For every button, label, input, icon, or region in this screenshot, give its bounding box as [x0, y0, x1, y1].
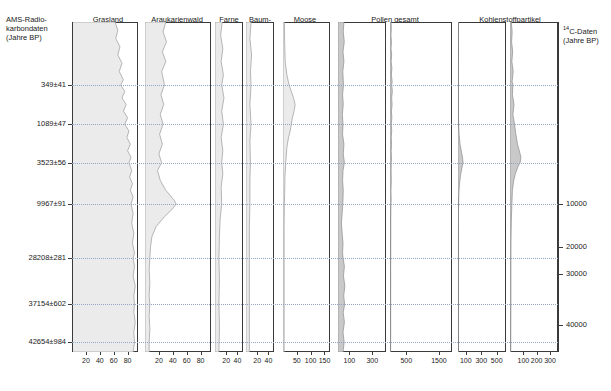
- ams-date-tick-6: [68, 342, 72, 343]
- pollen-diagram-figure: AMS-Radio- karbondaten (Jahre BP) Grasla…: [0, 0, 611, 391]
- curve-baumfarne: [246, 22, 274, 352]
- panel-araukarienwald: [145, 22, 211, 352]
- gridline-2: [72, 163, 558, 164]
- xtickmark-moose-0: [297, 352, 298, 355]
- panel-pollen-gesamt-a: [338, 22, 386, 352]
- xtickmark-pollen_b-0: [406, 352, 407, 355]
- ams-date-tick-5: [68, 304, 72, 305]
- c14-date-label-3: 40000: [566, 320, 587, 329]
- panel-kohlenstoffpartikel-b: [510, 22, 558, 352]
- curve-grasland: [72, 22, 138, 352]
- depth-axis-line: [72, 22, 73, 352]
- panel-kohlenstoffpartikel-a: [458, 22, 506, 352]
- xtick-grasland-3: 80: [114, 357, 142, 364]
- xtickmark-pollen_b-1: [439, 352, 440, 355]
- xtickmark-araukarienwald-3: [201, 352, 202, 355]
- ams-date-label-5: 37154±602: [0, 299, 66, 308]
- panel-moose: [283, 22, 330, 352]
- gridline-3: [72, 204, 558, 205]
- xtickmark-kohle_a-0: [466, 352, 467, 355]
- gridline-5: [72, 304, 558, 305]
- panel-farne: [215, 22, 243, 352]
- xtick-pollen_b-1: 1500: [425, 357, 453, 364]
- ams-date-label-3: 9967±91: [0, 199, 66, 208]
- header-ams-radiokarbondaten: AMS-Radio- karbondaten (Jahre BP): [6, 15, 76, 42]
- panel-baumfarne: [246, 22, 274, 352]
- xtickmark-kohle_b-1: [537, 352, 538, 355]
- c14-date-label-2: 30000: [566, 269, 587, 278]
- xtickmark-araukarienwald-0: [159, 352, 160, 355]
- curve-kohlenstoffpartikel-a: [458, 22, 506, 352]
- c14-date-tick-2: [559, 274, 563, 275]
- ams-date-tick-3: [68, 204, 72, 205]
- xtickmark-moose-1: [311, 352, 312, 355]
- xtick-pollen_a-1: 300: [358, 357, 386, 364]
- ams-date-tick-2: [68, 163, 72, 164]
- xtickmark-araukarienwald-1: [173, 352, 174, 355]
- curve-pollen-gesamt-a: [338, 22, 386, 352]
- xtick-pollen_b-0: 500: [392, 357, 420, 364]
- age-axis-line-right: [558, 22, 559, 352]
- xtickmark-grasland-3: [128, 352, 129, 355]
- ams-date-tick-1: [68, 124, 72, 125]
- curve-kohlenstoffpartikel-b: [510, 22, 558, 352]
- xtick-kohle_a-2: 500: [483, 357, 511, 364]
- curve-araukarienwald: [145, 22, 211, 352]
- ams-date-label-0: 349±41: [0, 80, 66, 89]
- xtickmark-pollen_a-0: [349, 352, 350, 355]
- header-c14-daten: 14C-Daten (Jahre BP): [563, 15, 609, 45]
- xtickmark-grasland-1: [100, 352, 101, 355]
- c14-date-tick-1: [559, 247, 563, 248]
- xtickmark-baumfarne-0: [257, 352, 258, 355]
- xtickmark-moose-2: [324, 352, 325, 355]
- xtickmark-pollen_a-1: [372, 352, 373, 355]
- gridline-6: [72, 342, 558, 343]
- xtickmark-kohle_a-1: [481, 352, 482, 355]
- ams-date-tick-0: [68, 85, 72, 86]
- xtick-araukarienwald-3: 80: [187, 357, 215, 364]
- panel-grasland: [72, 22, 138, 352]
- xtickmark-grasland-2: [114, 352, 115, 355]
- xtickmark-farne-0: [226, 352, 227, 355]
- panel-pollen-gesamt-b: [390, 22, 452, 352]
- ams-date-tick-4: [68, 258, 72, 259]
- curve-moose: [283, 22, 330, 352]
- xtickmark-kohle_b-2: [550, 352, 551, 355]
- curve-pollen-gesamt-b: [390, 22, 452, 352]
- xtickmark-grasland-0: [86, 352, 87, 355]
- c14-date-tick-0: [559, 204, 563, 205]
- xtickmark-kohle_a-2: [497, 352, 498, 355]
- gridline-1: [72, 124, 558, 125]
- ams-date-label-2: 3523±56: [0, 158, 66, 167]
- xtick-baumfarne-1: 40: [254, 357, 282, 364]
- xtickmark-farne-1: [237, 352, 238, 355]
- xtickmark-araukarienwald-2: [187, 352, 188, 355]
- c14-date-tick-3: [559, 325, 563, 326]
- xtick-moose-2: 150: [310, 357, 338, 364]
- curve-farne: [215, 22, 243, 352]
- ams-date-label-1: 1089±47: [0, 119, 66, 128]
- xtickmark-kohle_b-0: [523, 352, 524, 355]
- c14-date-label-0: 10000: [566, 199, 587, 208]
- header-c14-rest: C-Daten (Jahre BP): [563, 27, 599, 45]
- xtickmark-baumfarne-1: [268, 352, 269, 355]
- ams-date-label-6: 42654±984: [0, 337, 66, 346]
- c14-date-label-1: 20000: [566, 242, 587, 251]
- gridline-4: [72, 258, 558, 259]
- xtick-kohle_b-2: 300: [536, 357, 564, 364]
- gridline-0: [72, 85, 558, 86]
- ams-date-label-4: 28208±281: [0, 253, 66, 262]
